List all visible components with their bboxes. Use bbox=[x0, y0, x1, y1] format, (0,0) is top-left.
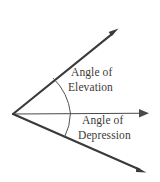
depression-label: Angle of Depression bbox=[78, 113, 131, 143]
depression-label-line-1: Angle of bbox=[82, 113, 131, 128]
elevation-label-line-2: Elevation bbox=[68, 80, 113, 95]
depression-label-line-2: Depression bbox=[78, 128, 131, 143]
elevation-label-line-1: Angle of bbox=[71, 65, 113, 80]
depression-arc bbox=[65, 113, 71, 137]
angle-diagram: Angle of Elevation Angle of Depression bbox=[0, 0, 160, 182]
elevation-label: Angle of Elevation bbox=[68, 65, 113, 95]
